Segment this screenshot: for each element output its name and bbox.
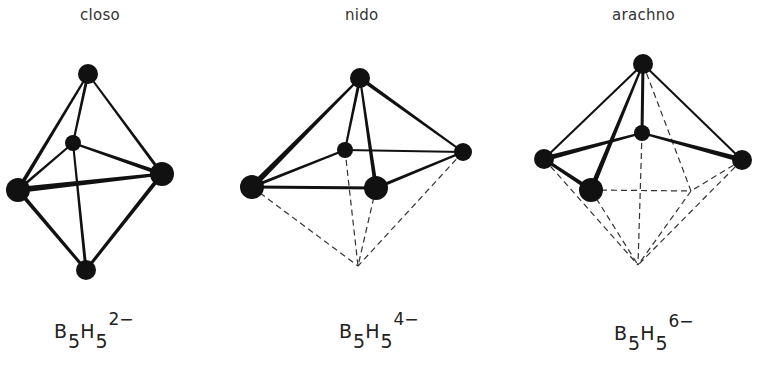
formula-hydrogen-count: 5 [655, 332, 667, 354]
formula-hydrogen-count: 5 [95, 330, 107, 352]
bond-edge [250, 77, 361, 189]
boron-atom [240, 175, 264, 199]
boron-atom [350, 68, 370, 88]
boron-atom [364, 176, 388, 200]
formula-hydrogen: H [365, 320, 379, 342]
dashed-edge [345, 150, 358, 266]
bond-edge [16, 74, 89, 192]
dashed-edge [591, 190, 638, 265]
dashed-edge [591, 190, 691, 191]
bond-edge [18, 173, 163, 194]
formula-hydrogen: H [80, 320, 94, 342]
boron-atom [76, 260, 96, 280]
formula-boron-count: 5 [68, 330, 80, 352]
boron-atom [634, 125, 650, 141]
boron-atom [65, 135, 81, 151]
dashed-edge [638, 133, 642, 265]
bond-edge [344, 78, 362, 151]
bond-edge [359, 78, 378, 188]
dashed-edge [638, 191, 691, 265]
bond-edge [589, 64, 644, 191]
formula-charge: 6− [669, 311, 694, 331]
closo-structure [6, 64, 174, 280]
bond-edge [17, 189, 88, 271]
bond-edge [251, 149, 345, 188]
formula-hydrogen: H [640, 322, 654, 344]
formula-hydrogen-count: 5 [380, 330, 392, 352]
closo-title: closo [80, 6, 120, 24]
arachno-formula: B5H56− [614, 324, 694, 343]
boron-atom [6, 178, 30, 202]
formula-boron: B [339, 320, 352, 342]
boron-atom [633, 54, 653, 74]
bond-edge [359, 76, 464, 152]
bond-edge [72, 143, 88, 270]
bond-edge [345, 149, 463, 153]
dashed-edge [544, 159, 638, 265]
boron-atom [579, 178, 603, 202]
boron-atom [78, 64, 98, 84]
arachno-structure [534, 54, 752, 265]
closo-formula: B5H52− [54, 322, 134, 341]
formula-boron-count: 5 [353, 330, 365, 352]
dashed-edge [638, 160, 742, 265]
bond-edge [375, 151, 463, 189]
boron-atom [150, 162, 174, 186]
formula-charge: 2− [109, 309, 134, 329]
boron-atom [534, 149, 554, 169]
nido-structure [240, 68, 472, 266]
nido-formula: B5H54− [339, 322, 419, 341]
dashed-edge [252, 187, 358, 266]
dashed-edge [643, 64, 691, 191]
bond-edge [85, 173, 164, 271]
dashed-edge [358, 188, 376, 266]
boron-atom [337, 142, 353, 158]
nido-title: nido [345, 6, 379, 24]
boron-atom [454, 143, 472, 161]
formula-charge: 4− [394, 309, 419, 329]
formula-boron-count: 5 [628, 332, 640, 354]
formula-boron: B [614, 322, 627, 344]
formula-boron: B [54, 320, 67, 342]
arachno-title: arachno [612, 6, 675, 24]
bond-edge [252, 186, 376, 190]
bond-edge [641, 64, 645, 133]
boron-atom [732, 150, 752, 170]
